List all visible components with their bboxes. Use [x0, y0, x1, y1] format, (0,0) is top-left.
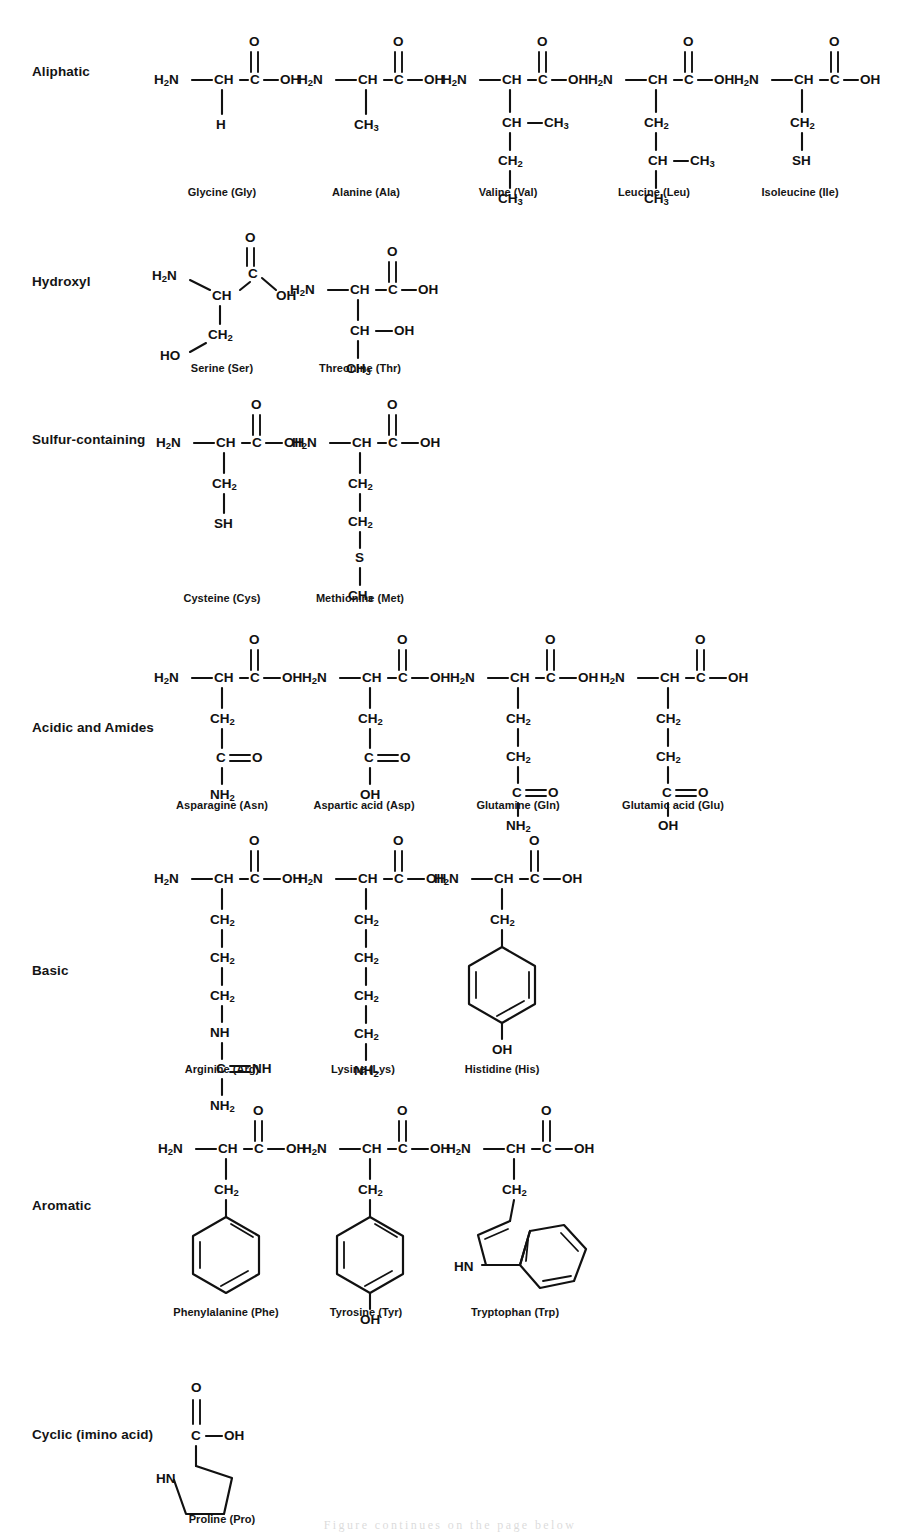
molecule-name-threonine: Threonine (Thr) — [319, 362, 401, 374]
svg-text:CH: CH — [214, 871, 234, 886]
molecule-name-alanine: Alanine (Ala) — [332, 186, 400, 198]
svg-text:OH: OH — [224, 1428, 244, 1443]
svg-text:C: C — [250, 670, 260, 685]
structure-aspartic-acid: H2N CH C OH O CH2 C O OH — [300, 630, 460, 790]
svg-text:OH: OH — [728, 670, 748, 685]
svg-text:C: C — [398, 1141, 408, 1156]
svg-text:CH2: CH2 — [656, 749, 681, 765]
svg-text:CH2: CH2 — [490, 912, 515, 928]
svg-text:H2N: H2N — [442, 72, 467, 88]
svg-text:C: C — [216, 750, 226, 765]
structure-leucine: H2N CH C OH O CH2 CH CH3 CH3 — [586, 30, 746, 175]
svg-text:CH2: CH2 — [506, 711, 531, 727]
molecule-name-phenylalanine: Phenylalanine (Phe) — [173, 1306, 278, 1318]
svg-text:H2N: H2N — [302, 1141, 327, 1157]
structure-histidine: H2N CH C OH O CH2 OH — [432, 855, 602, 1055]
svg-text:O: O — [253, 1103, 264, 1118]
svg-text:CH: CH — [660, 670, 680, 685]
svg-text:CH2: CH2 — [208, 327, 233, 343]
svg-text:CH: CH — [494, 871, 514, 886]
svg-text:C: C — [684, 72, 694, 87]
svg-text:OH: OH — [658, 818, 678, 833]
svg-text:CH2: CH2 — [358, 1182, 383, 1198]
svg-text:C: C — [830, 72, 840, 87]
svg-text:C: C — [696, 670, 706, 685]
svg-text:O: O — [251, 397, 262, 412]
structure-tryptophan: H2N CH C OH O CH2 HN — [444, 1125, 644, 1325]
svg-text:CH: CH — [510, 670, 530, 685]
svg-text:CH: CH — [214, 670, 234, 685]
svg-text:NH2: NH2 — [506, 818, 531, 834]
svg-text:O: O — [249, 833, 260, 848]
structure-asparagine: H2N CH C OH O CH2 C O NH2 — [152, 630, 312, 790]
svg-text:CH: CH — [794, 72, 814, 87]
svg-text:CH2: CH2 — [354, 1026, 379, 1042]
svg-text:CH2: CH2 — [210, 711, 235, 727]
svg-text:CH2: CH2 — [210, 912, 235, 928]
svg-text:O: O — [387, 397, 398, 412]
svg-text:C: C — [530, 871, 540, 886]
svg-text:C: C — [512, 785, 522, 800]
svg-text:CH3: CH3 — [690, 153, 715, 169]
svg-text:O: O — [400, 750, 411, 765]
svg-text:O: O — [829, 34, 840, 49]
svg-text:O: O — [397, 1103, 408, 1118]
svg-text:CH: CH — [350, 323, 370, 338]
molecule-name-valine: Valine (Val) — [479, 186, 538, 198]
structure-valine: H2N CH C OH O CH CH3 CH2 CH3 — [440, 30, 600, 175]
svg-text:H2N: H2N — [154, 72, 179, 88]
svg-text:O: O — [541, 1103, 552, 1118]
svg-text:CH2: CH2 — [644, 115, 669, 131]
svg-text:C: C — [388, 282, 398, 297]
molecule-name-methionine: Methionine (Met) — [316, 592, 404, 604]
svg-text:CH2: CH2 — [790, 115, 815, 131]
svg-text:SH: SH — [792, 153, 811, 168]
svg-text:C: C — [546, 670, 556, 685]
svg-text:C: C — [248, 266, 258, 281]
svg-text:NH: NH — [210, 1025, 230, 1040]
svg-text:O: O — [393, 833, 404, 848]
svg-text:H2N: H2N — [290, 282, 315, 298]
svg-text:CH: CH — [214, 72, 234, 87]
page-footer-text: Figure continues on the page below — [0, 1518, 900, 1540]
svg-text:CH2: CH2 — [210, 988, 235, 1004]
svg-text:CH3: CH3 — [354, 117, 379, 133]
svg-text:OH: OH — [578, 670, 598, 685]
svg-text:O: O — [387, 244, 398, 259]
svg-text:CH: CH — [506, 1141, 526, 1156]
svg-text:OH: OH — [562, 871, 582, 886]
svg-text:H2N: H2N — [588, 72, 613, 88]
svg-text:H2N: H2N — [600, 670, 625, 686]
svg-text:H2N: H2N — [446, 1141, 471, 1157]
svg-text:O: O — [537, 34, 548, 49]
svg-text:CH2: CH2 — [358, 711, 383, 727]
svg-text:H2N: H2N — [298, 871, 323, 887]
svg-text:O: O — [397, 632, 408, 647]
svg-text:CH2: CH2 — [210, 950, 235, 966]
molecule-name-aspartic-acid: Aspartic acid (Asp) — [313, 799, 414, 811]
svg-text:H2N: H2N — [302, 670, 327, 686]
svg-text:CH2: CH2 — [348, 476, 373, 492]
svg-text:O: O — [252, 750, 263, 765]
figure-sheet: Aliphatic Hydroxyl Sulfur-containing Aci… — [0, 0, 900, 1540]
svg-text:C: C — [542, 1141, 552, 1156]
svg-text:H2N: H2N — [292, 435, 317, 451]
structure-proline: O C OH HN — [160, 1378, 340, 1528]
svg-text:CH2: CH2 — [502, 1182, 527, 1198]
category-label-aromatic: Aromatic — [32, 1198, 91, 1213]
svg-text:H: H — [216, 117, 226, 132]
svg-text:OH: OH — [420, 435, 440, 450]
svg-text:C: C — [250, 871, 260, 886]
svg-text:HN: HN — [156, 1471, 176, 1486]
svg-text:H2N: H2N — [154, 871, 179, 887]
molecule-name-serine: Serine (Ser) — [191, 362, 253, 374]
svg-text:H2N: H2N — [734, 72, 759, 88]
structure-glycine: H2N CH C OH O H — [152, 30, 302, 160]
svg-text:C: C — [394, 72, 404, 87]
category-label-hydroxyl: Hydroxyl — [32, 274, 91, 289]
molecule-name-tryptophan: Tryptophan (Trp) — [471, 1306, 559, 1318]
structure-isoleucine: H2N CH C OH O CH2 SH — [732, 30, 892, 160]
svg-text:CH2: CH2 — [498, 153, 523, 169]
structure-threonine: H2N CH C OH O CH OH CH3 — [288, 242, 448, 372]
svg-text:CH: CH — [648, 72, 668, 87]
